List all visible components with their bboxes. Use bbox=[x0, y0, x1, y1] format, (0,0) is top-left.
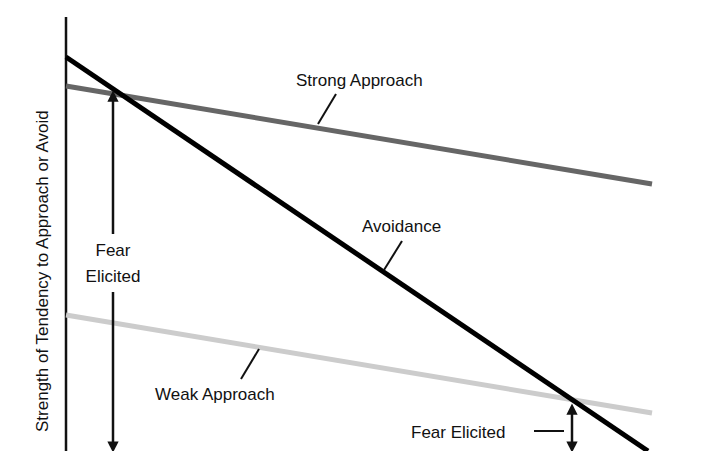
approach-avoidance-diagram: Strength of Tendency to Approach or Avoi… bbox=[0, 0, 705, 451]
avoidance-label: Avoidance bbox=[362, 217, 441, 236]
weak-approach-leader bbox=[241, 349, 259, 379]
weak-approach-line bbox=[66, 315, 652, 413]
strong-approach-leader bbox=[318, 94, 336, 124]
avoidance-leader bbox=[384, 241, 402, 270]
y-axis-label: Strength of Tendency to Approach or Avoi… bbox=[33, 110, 52, 432]
strong-approach-line bbox=[66, 86, 652, 184]
strong-approach-label: Strong Approach bbox=[296, 71, 423, 90]
fear-elicited-right-label: Fear Elicited bbox=[411, 423, 505, 442]
fear-elicited-left-label-line2: Elicited bbox=[86, 267, 141, 286]
avoidance-line bbox=[66, 57, 648, 451]
fear-elicited-left-label-line1: Fear bbox=[96, 241, 131, 260]
weak-approach-label: Weak Approach bbox=[155, 385, 275, 404]
